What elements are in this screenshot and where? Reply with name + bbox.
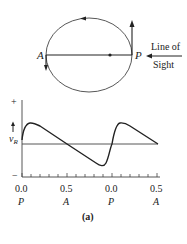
phase-label-1: A	[62, 196, 70, 207]
y-minus-label: −	[12, 170, 18, 181]
periapsis-label: P	[134, 49, 142, 61]
arrow-left-icon	[146, 54, 152, 59]
phase-label-0: P	[17, 196, 24, 207]
phase-label-3: A	[152, 196, 160, 207]
x-ticks	[22, 173, 157, 177]
orbit-direction-arrow-icon	[80, 17, 86, 21]
apoapsis-label: A	[36, 49, 44, 61]
x-tick-label-1: 0.5	[60, 183, 73, 194]
arrow-up-icon	[130, 20, 135, 27]
arrow-up-small-icon	[11, 122, 15, 127]
arrow-down-icon	[44, 65, 48, 71]
x-tick-label-2: 0.0	[105, 183, 118, 194]
y-plus-label: +	[11, 96, 17, 107]
line-of-sight-label-1: Line of	[151, 41, 181, 52]
x-tick-label-3: 0.5	[150, 183, 163, 194]
line-of-sight-label-2: Sight	[153, 59, 174, 70]
figure-caption: (a)	[82, 211, 94, 223]
vr-label: vR	[9, 133, 18, 146]
focus-dot	[108, 53, 111, 56]
phase-label-2: P	[107, 196, 114, 207]
diagram-canvas: A P Line of Sight + − vR 0.0 0.5 0.0 0.5…	[0, 0, 187, 244]
x-tick-label-0: 0.0	[15, 183, 28, 194]
